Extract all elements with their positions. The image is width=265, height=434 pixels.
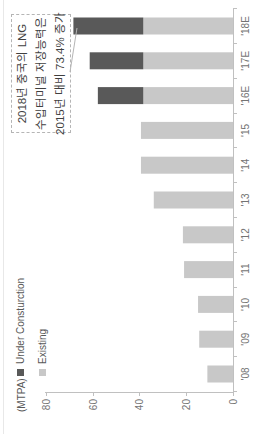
annotation-callout-line bbox=[70, 28, 77, 72]
bar-existing-segment bbox=[143, 18, 233, 35]
lng-storage-capacity-chart: (MTPA) Under Consturction Existing 2018년… bbox=[0, 0, 265, 434]
year-label: '18E bbox=[240, 16, 251, 36]
bar-existing-segment bbox=[154, 192, 233, 209]
y-tick-label: 60 bbox=[88, 399, 99, 411]
bar-existing-segment bbox=[141, 122, 233, 139]
bar-existing-segment bbox=[183, 226, 233, 243]
bar-under-construction-segment bbox=[98, 87, 143, 104]
bar-under-construction-segment bbox=[73, 18, 143, 35]
year-label: '14 bbox=[240, 158, 251, 171]
bar-existing-segment bbox=[143, 87, 233, 104]
bar-existing-segment bbox=[199, 331, 233, 348]
plot-svg: 020406080'08'09'10'11'12'13'14'15'16E'17… bbox=[0, 0, 265, 434]
year-label: '10 bbox=[240, 297, 251, 310]
bar-under-construction-segment bbox=[90, 52, 144, 69]
year-label: '12 bbox=[240, 228, 251, 241]
bar-existing-segment bbox=[207, 366, 233, 383]
year-label: '08 bbox=[240, 367, 251, 380]
y-tick-label: 80 bbox=[41, 399, 52, 411]
y-tick-label: 40 bbox=[134, 399, 145, 411]
y-tick-label: 20 bbox=[181, 399, 192, 411]
year-label: '11 bbox=[240, 263, 251, 276]
year-label: '16E bbox=[240, 85, 251, 105]
year-label: '13 bbox=[240, 193, 251, 206]
bar-existing-segment bbox=[198, 296, 233, 313]
bar-existing-segment bbox=[184, 261, 233, 278]
year-label: '17E bbox=[240, 51, 251, 71]
bar-existing-segment bbox=[143, 52, 233, 69]
year-label: '09 bbox=[240, 332, 251, 345]
bar-existing-segment bbox=[141, 157, 233, 174]
chart-stage: (MTPA) Under Consturction Existing 2018년… bbox=[0, 0, 265, 434]
year-label: '15 bbox=[240, 123, 251, 136]
y-tick-label: 0 bbox=[228, 399, 239, 405]
